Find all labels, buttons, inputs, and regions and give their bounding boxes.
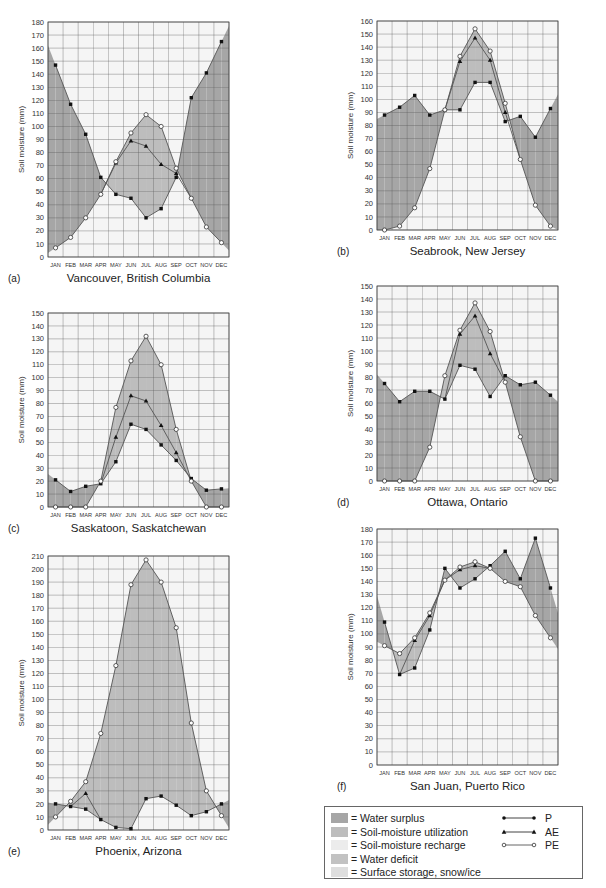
p-point [519,577,522,580]
x-tick-label: MAR [408,770,420,776]
p-point [54,63,57,66]
p-point [549,586,552,589]
y-tick-label: 100 [31,695,44,704]
pe-point [69,799,73,803]
y-tick-label: 70 [36,734,44,743]
p-point [398,106,401,109]
x-tick-label: APR [424,235,436,241]
y-tick-label: 40 [365,173,373,182]
x-tick-label: FEB [394,235,405,241]
legend-line-ae: AE [501,825,559,839]
y-tick-label: 40 [36,451,44,460]
x-tick-label: JAN [379,770,390,776]
p-point [504,550,507,553]
chart-e: 0102030405060708090100110120130140150160… [8,552,229,857]
y-tick-label: 90 [36,386,44,395]
pe-point [488,329,492,333]
y-tick-label: 110 [32,360,44,369]
p-point [220,487,223,490]
x-tick-label: APR [95,512,107,518]
y-tick-label: 100 [31,122,44,131]
y-tick-label: 70 [36,161,44,170]
pe-point [398,651,402,655]
p-point [175,804,178,807]
y-tick-label: 130 [360,56,373,65]
p-point [175,459,178,462]
y-tick-label: 0 [369,761,373,770]
x-tick-label: DEC [216,262,228,268]
y-tick-label: 130 [360,590,373,599]
legend-line-pe: PE [501,838,559,852]
p-point [428,628,431,631]
pe-point [503,380,507,384]
pe-point [99,731,103,735]
p-point [205,810,208,813]
pe-point [129,131,133,135]
x-tick-label: MAR [79,835,91,841]
swatch-storage [331,867,348,877]
p-point [99,176,102,179]
pe-point [458,328,462,332]
pe-point [548,636,552,640]
y-tick-label: 20 [36,477,44,486]
x-tick-label: AUG [484,235,496,241]
y-tick-label: 90 [365,360,373,369]
y-tick-label: 10 [36,490,44,499]
y-tick-label: 140 [360,43,373,52]
surplus-area [550,94,558,230]
pe-point [458,54,462,58]
pe-point [159,580,163,584]
surplus-area [221,488,229,507]
y-tick-label: 140 [360,577,373,586]
swatch-utilization [331,827,348,837]
legend-item-deficit: = Water deficit [331,852,418,866]
pe-point [518,585,522,589]
p-point [443,397,446,400]
x-tick-label: NOV [200,835,212,841]
pe-point [473,560,477,564]
p-point [519,115,522,118]
x-tick-label: MAR [408,235,420,241]
x-tick-label: FEB [65,835,76,841]
y-tick-label: 130 [31,334,44,343]
swatch-surplus [331,813,348,823]
x-tick-label: MAY [439,770,451,776]
y-tick-label: 20 [36,226,44,235]
pe-point [114,160,118,164]
p-point [473,81,476,84]
y-tick-label: 170 [31,31,44,40]
pe-point [413,479,417,483]
y-tick-label: 110 [361,82,373,91]
y-tick-label: 20 [365,734,373,743]
y-tick-label: 180 [360,525,373,534]
legend-item-utilization: = Soil-moisture utilization [331,825,468,839]
y-tick-label: 50 [36,187,44,196]
p-point [473,577,476,580]
x-tick-label: NOV [529,235,541,241]
pe-point [84,216,88,220]
y-tick-label: 0 [40,826,44,835]
y-tick-label: 190 [31,578,44,587]
x-tick-label: JUL [470,770,480,776]
y-tick-label: 80 [365,656,373,665]
p-point [398,400,401,403]
y-tick-label: 0 [40,253,44,262]
x-tick-label: JAN [379,235,390,241]
chart-title: Phoenix, Arizona [95,845,182,857]
x-tick-label: MAR [79,512,91,518]
x-tick-label: OCT [514,486,526,492]
x-tick-label: JUN [126,262,137,268]
p-point [413,94,416,97]
y-tick-label: 70 [36,412,44,421]
p-point [488,395,491,398]
x-tick-label: AUG [484,486,496,492]
pe-point [204,789,208,793]
x-tick-label: FEB [394,486,405,492]
x-tick-label: JUN [455,235,466,241]
x-tick-label: DEC [216,835,228,841]
y-tick-label: 60 [36,425,44,434]
pe-point [518,157,522,161]
pe-point [53,815,57,819]
y-tick-label: 60 [365,682,373,691]
y-tick-label: 160 [360,17,373,26]
